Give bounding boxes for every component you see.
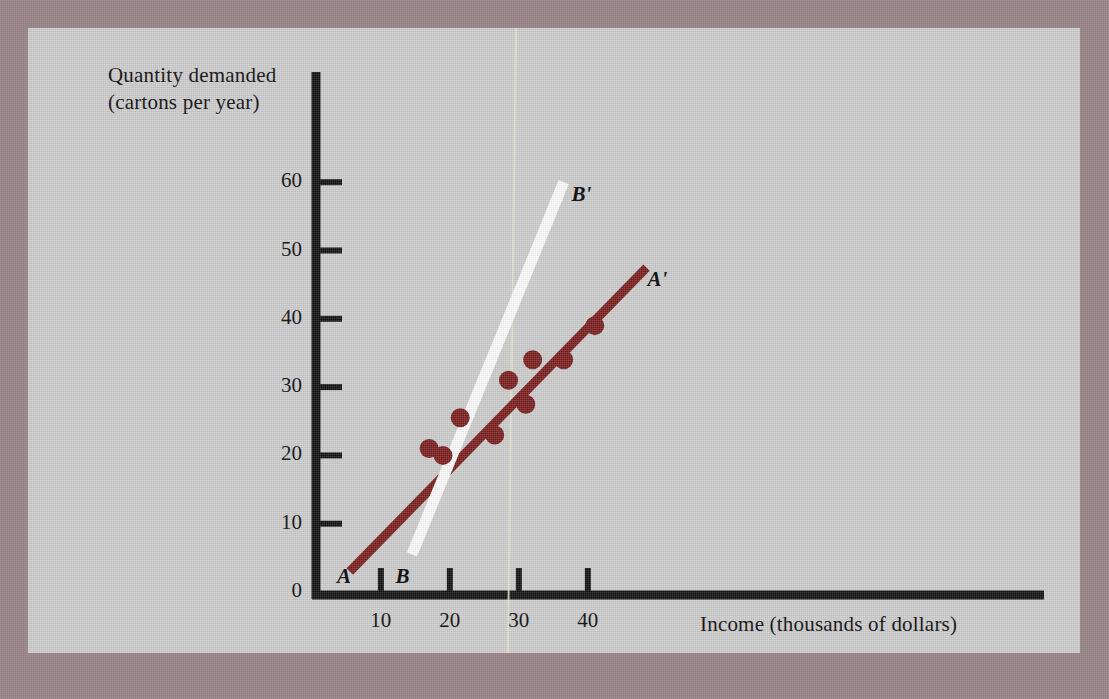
data-point bbox=[499, 371, 518, 390]
y-tick-label: 50 bbox=[262, 237, 302, 262]
y-tick-label: 10 bbox=[262, 510, 302, 535]
chart-panel: Quantity demanded (cartons per year) Inc… bbox=[28, 28, 1080, 653]
y-axis-title: Quantity demanded (cartons per year) bbox=[108, 62, 276, 116]
line-label-Bprime: B' bbox=[572, 182, 592, 207]
scatter-plot-canvas bbox=[28, 28, 1080, 653]
y-tick-label: 60 bbox=[262, 168, 302, 193]
series-line-bbprime bbox=[412, 182, 564, 554]
plot-geometry bbox=[312, 28, 1044, 653]
data-point bbox=[451, 408, 470, 427]
y-tick-label: 40 bbox=[262, 305, 302, 330]
line-label-Aprime: A' bbox=[647, 267, 667, 292]
data-point bbox=[523, 350, 542, 369]
line-label-B: B bbox=[396, 564, 410, 589]
x-tick-label: 20 bbox=[430, 608, 470, 633]
x-tick-label: 10 bbox=[361, 608, 401, 633]
page-crease-line bbox=[508, 28, 516, 653]
x-tick-label: 30 bbox=[499, 608, 539, 633]
series-line-aaprime bbox=[350, 268, 647, 572]
data-point bbox=[485, 425, 504, 444]
data-point bbox=[585, 316, 604, 335]
y-tick-label: 20 bbox=[262, 441, 302, 466]
y-tick-label: 30 bbox=[262, 373, 302, 398]
x-tick-label: 40 bbox=[568, 608, 608, 633]
data-point bbox=[554, 350, 573, 369]
y-tick-label: 0 bbox=[262, 578, 302, 603]
data-point bbox=[433, 446, 452, 465]
data-point bbox=[516, 395, 535, 414]
x-axis-title: Income (thousands of dollars) bbox=[700, 611, 957, 638]
line-label-A: A bbox=[337, 564, 351, 589]
figure-mount: Quantity demanded (cartons per year) Inc… bbox=[0, 0, 1109, 699]
